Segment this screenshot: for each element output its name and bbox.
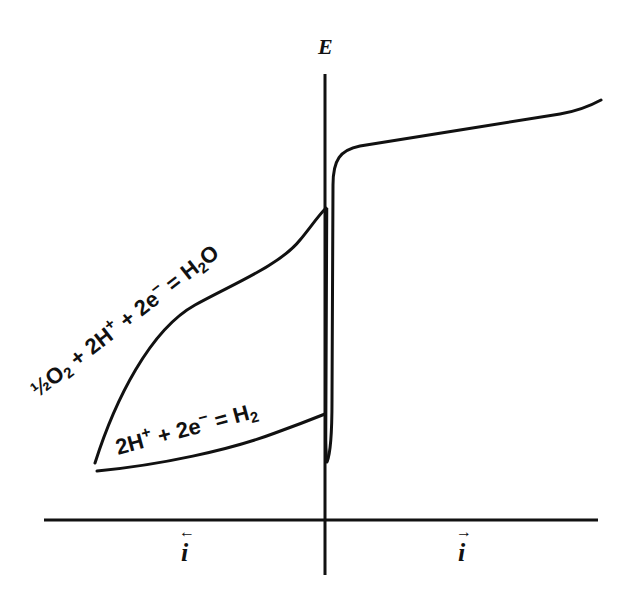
polarization-diagram: E ← i → i ½O2 + 2H+ + 2e− = H2O 2H+ + 2e… bbox=[0, 0, 623, 600]
i-axis-label-left: ← i bbox=[179, 523, 195, 567]
anodic-curve bbox=[327, 100, 601, 462]
hydrogen-evolution-label: 2H+ + 2e− = H2 bbox=[112, 395, 260, 462]
anodic-inner-line bbox=[326, 208, 327, 462]
svg-text:i: i bbox=[458, 538, 466, 567]
oxygen-reduction-label: ½O2 + 2H+ + 2e− = H2O bbox=[24, 237, 225, 403]
i-axis-label-right: → i bbox=[456, 523, 472, 567]
svg-text:i: i bbox=[181, 538, 189, 567]
e-axis-label: E bbox=[317, 34, 333, 59]
